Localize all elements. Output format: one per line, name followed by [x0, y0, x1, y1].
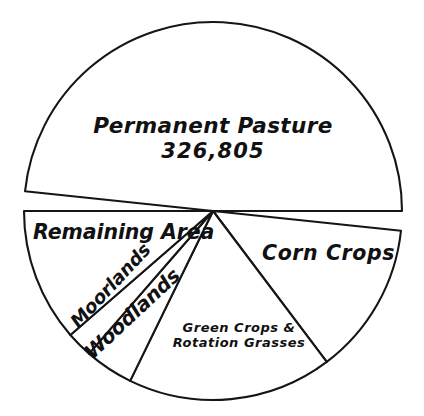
pie-chart-figure: Permanent Pasture 326,805 Remaining Area… — [0, 0, 424, 416]
pie-slice-permanent-pasture — [25, 22, 402, 211]
pie-chart-canvas — [0, 0, 424, 416]
pie-sector-group — [24, 22, 402, 400]
